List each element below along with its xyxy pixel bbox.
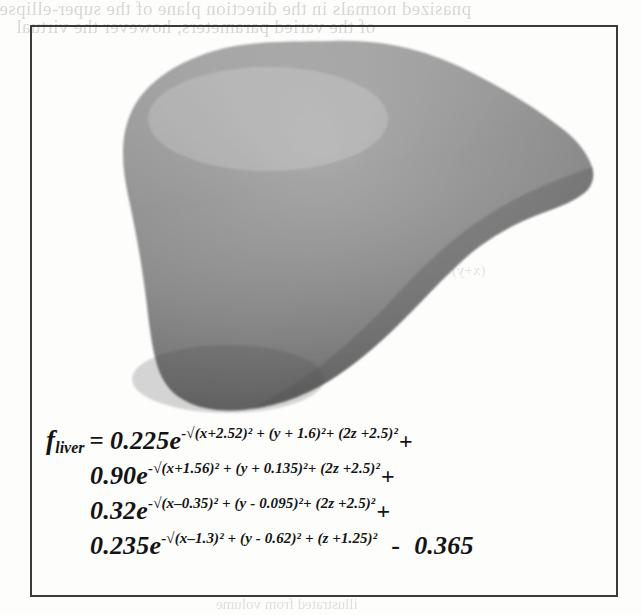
term-2-trailing-operator: + [380,463,395,489]
liver-equation: fliver=0.225e-√(x+2.52)² + (y + 1.6)²+ (… [32,425,616,595]
term-1-base: e [169,426,181,455]
equals-sign: = [85,427,110,454]
term-1-trailing-operator: + [398,428,413,454]
term-3-exponent-body: (x–0.35)² + (y - 0.095)²+ (2z +2.5)² [162,495,376,511]
bleedthrough-text-top-line-1: pnasized normals in the direction plane … [0,0,471,20]
term-3-radical: √ [153,495,161,511]
equation-line-2: 0.90e-√(x+1.56)² + (y + 0.135)²+ (2z +2.… [90,460,395,491]
equation-line-1: fliver=0.225e-√(x+2.52)² + (y + 1.6)²+ (… [46,425,413,457]
term-1-coefficient: 0.225 [110,426,170,455]
equation-line-3: 0.32e-√(x–0.35)² + (y - 0.095)²+ (2z +2.… [90,495,390,526]
term-3-coefficient: 0.32 [90,496,136,525]
constant-operator: - [377,531,400,560]
constant-value: 0.365 [400,531,474,560]
scanned-page: pnasized normals in the direction plane … [0,0,642,615]
term-2-coefficient: 0.90 [90,461,136,490]
term-4-radical: √ [166,530,174,546]
term-4-exponent-body: (x–1.3)² + (y - 0.62)² + (z +1.25)² [175,530,378,546]
term-1-exponent-body: (x+2.52)² + (y + 1.6)²+ (2z +2.5)² [195,425,398,441]
bleedthrough-text-bottom: illustrated from volume [216,596,358,613]
liver-lobe-shadow [132,345,324,413]
term-4-base: e [150,531,162,560]
function-subscript: liver [55,439,84,456]
term-4-coefficient: 0.235 [90,531,150,560]
liver-render [32,27,616,417]
term-2-exponent-body: (x+1.56)² + (y + 0.135)²+ (2z +2.5)² [162,460,381,476]
term-3-base: e [136,496,148,525]
liver-highlight [148,67,388,171]
term-3-trailing-operator: + [375,498,390,524]
term-2-radical: √ [153,460,161,476]
equation-line-4: 0.235e-√(x–1.3)² + (y - 0.62)² + (z +1.2… [90,530,474,561]
term-1-radical: √ [186,425,194,441]
term-2-base: e [136,461,148,490]
liver-svg [32,27,616,417]
figure-frame: fliver=0.225e-√(x+2.52)² + (y + 1.6)²+ (… [30,25,618,597]
function-name: f [46,425,55,455]
